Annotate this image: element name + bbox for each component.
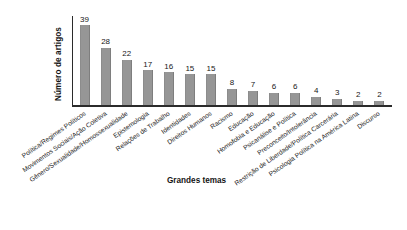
bar-slot: 6: [285, 14, 306, 105]
bar[interactable]: [290, 93, 300, 105]
bar-value-label: 8: [230, 78, 234, 87]
bar[interactable]: [185, 74, 195, 105]
bar-value-label: 4: [314, 86, 318, 95]
bar-slot: 15: [179, 14, 200, 105]
bar[interactable]: [248, 91, 258, 105]
y-axis-title: Número de artigos: [52, 18, 66, 110]
bar-slot: 4: [306, 14, 327, 105]
bar-slot: 39: [74, 14, 95, 105]
bar-slot: 2: [348, 14, 369, 105]
bar-slot: 28: [95, 14, 116, 105]
bar-slot: 22: [116, 14, 137, 105]
bar-value-label: 7: [251, 80, 255, 89]
bar-slot: 7: [243, 14, 264, 105]
bar-value-label: 16: [164, 62, 173, 71]
bar-value-label: 2: [377, 90, 381, 99]
plot-area: 3928221716151587664322: [74, 14, 390, 105]
bar-slot: 16: [158, 14, 179, 105]
bar[interactable]: [101, 48, 111, 105]
bar[interactable]: [122, 60, 132, 105]
bar[interactable]: [80, 25, 90, 105]
bar-value-label: 15: [206, 64, 215, 73]
bar-value-label: 15: [185, 64, 194, 73]
bar[interactable]: [374, 101, 384, 105]
bar-slot: 15: [200, 14, 221, 105]
x-axis-line: [72, 105, 392, 107]
bar-value-label: 6: [272, 82, 276, 91]
bar-slot: 3: [327, 14, 348, 105]
bar-value-label: 17: [143, 60, 152, 69]
y-axis-line: [72, 16, 73, 106]
bar[interactable]: [311, 97, 321, 105]
bar[interactable]: [164, 72, 174, 105]
bar[interactable]: [332, 99, 342, 105]
bar-slot: 6: [264, 14, 285, 105]
bar-slot: 17: [137, 14, 158, 105]
bar-value-label: 22: [122, 49, 131, 58]
bar-value-label: 3: [335, 88, 339, 97]
bar-slot: 8: [221, 14, 242, 105]
bar-value-label: 28: [101, 37, 110, 46]
bar[interactable]: [143, 70, 153, 105]
bar-value-label: 39: [80, 15, 89, 24]
bar[interactable]: [269, 93, 279, 105]
bar-chart: Número de artigos 3928221716151587664322…: [0, 0, 407, 230]
x-axis-title: Grandes temas: [167, 176, 226, 185]
bar[interactable]: [227, 89, 237, 105]
bar-slot: 2: [369, 14, 390, 105]
bar[interactable]: [353, 101, 363, 105]
bar-value-label: 2: [356, 90, 360, 99]
bar-value-label: 6: [293, 82, 297, 91]
bar[interactable]: [206, 74, 216, 105]
